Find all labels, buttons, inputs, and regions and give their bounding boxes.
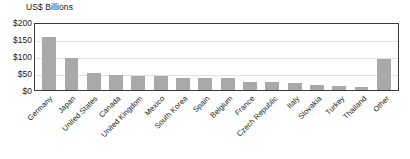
bar [221, 78, 235, 90]
bar-slot [83, 24, 105, 90]
x-axis-category-label: Other [371, 94, 391, 114]
bar-chart: US$ Billions $0$50$100$150$200 GermanyJa… [0, 0, 410, 159]
y-axis-tick-label: $50 [0, 69, 32, 79]
bar [265, 82, 279, 90]
bar [310, 85, 324, 90]
bar-slot [38, 24, 60, 90]
bar [377, 59, 391, 90]
bar [198, 78, 212, 90]
bar [355, 87, 369, 90]
x-axis-category-label: Germany [26, 94, 55, 123]
bar [332, 86, 346, 90]
bar-slot [150, 24, 172, 90]
bar-slot [172, 24, 194, 90]
bar [288, 83, 302, 90]
bar-slot [261, 24, 283, 90]
y-axis-tick-label: $0 [0, 86, 32, 96]
bar-slot [373, 24, 395, 90]
x-axis-category-label: Czech Republic [234, 94, 278, 138]
bar-slot [239, 24, 261, 90]
x-axis-category-label: Thailand [341, 94, 368, 121]
bar [243, 82, 257, 91]
bar-slot [350, 24, 372, 90]
bar-slot [127, 24, 149, 90]
x-axis-category-labels: GermanyJapanUnited StatesCanadaUnited Ki… [34, 92, 399, 159]
bar-slot [328, 24, 350, 90]
bar [87, 73, 101, 90]
bar-slot [60, 24, 82, 90]
bar-slot [306, 24, 328, 90]
x-axis-category-label: Italy [285, 94, 301, 110]
plot-area [34, 23, 399, 91]
bar [131, 76, 145, 90]
bar-slot [217, 24, 239, 90]
bar-slot [105, 24, 127, 90]
bar [42, 37, 56, 90]
y-axis-tick-label: $150 [0, 35, 32, 45]
x-axis-category-label: Belgium [208, 94, 234, 120]
bar [154, 76, 168, 90]
y-axis-title: US$ Billions [26, 2, 73, 12]
x-axis-category-label: Slovakia [297, 94, 324, 121]
bar [176, 78, 190, 90]
bar-slot [194, 24, 216, 90]
y-axis-tick-label: $200 [0, 18, 32, 28]
bar-slot [283, 24, 305, 90]
x-axis-category-label: Spain [191, 94, 211, 114]
y-axis-tick-label: $100 [0, 52, 32, 62]
bar [65, 58, 79, 90]
bar [109, 75, 123, 90]
bar-series [35, 24, 398, 90]
